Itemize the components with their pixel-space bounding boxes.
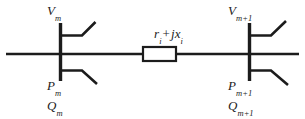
bus-m-plus-1-reactive-power-subscript: m+1 [238, 108, 254, 118]
bus-m-plus-1-voltage-symbol: V [228, 3, 236, 18]
bus-m-plus-1-upper-branch-arrow [250, 21, 287, 36]
bus-m-voltage-symbol: V [47, 3, 55, 18]
plus-operator: + [162, 26, 171, 41]
branch-resistance-subscript: i [159, 36, 161, 46]
bus-m-plus-1-lower-branch-arrow [250, 71, 289, 86]
power-system-branch-diagram: Vm Vm+1 ri+jxi Pm Qm Pm+1 Qm+1 [0, 0, 305, 119]
bus-m-voltage-label: Vm [47, 4, 61, 17]
bus-m-upper-branch-arrow [61, 22, 96, 36]
diagram-canvas [0, 0, 305, 119]
bus-m-active-power-symbol: P [47, 78, 55, 93]
bus-m-reactive-power-label: Qm [47, 99, 63, 112]
bus-m-plus-1-active-power-label: Pm+1 [228, 79, 252, 92]
bus-m-plus-1-reactive-power-symbol: Q [228, 98, 238, 113]
bus-m-lower-branch-arrow [61, 71, 98, 85]
bus-m-plus-1-reactive-power-label: Qm+1 [228, 99, 254, 112]
bus-m-active-power-subscript: m [55, 88, 61, 98]
branch-reactance-symbol: x [175, 26, 181, 41]
bus-m-plus-1-active-power-symbol: P [228, 78, 236, 93]
series-impedance-box [143, 47, 176, 61]
bus-m-reactive-power-symbol: Q [47, 98, 57, 113]
bus-m-plus-1-voltage-label: Vm+1 [228, 4, 252, 17]
branch-impedance-label: ri+jxi [154, 27, 183, 40]
bus-m-voltage-subscript: m [55, 13, 61, 23]
bus-m-active-power-label: Pm [47, 79, 61, 92]
bus-m-plus-1-voltage-subscript: m+1 [236, 13, 252, 23]
bus-m-plus-1-active-power-subscript: m+1 [236, 88, 252, 98]
branch-reactance-subscript: i [181, 36, 183, 46]
bus-m-reactive-power-subscript: m [57, 108, 63, 118]
